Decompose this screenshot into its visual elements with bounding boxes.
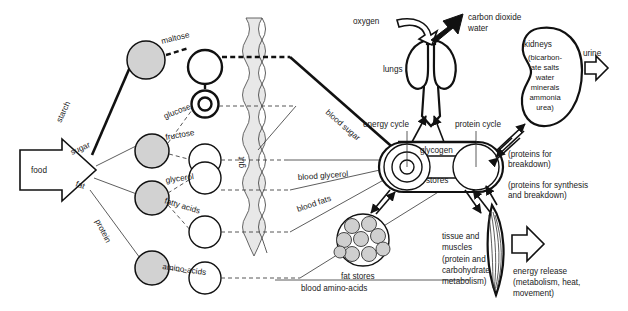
tissue-line-5: metabolism)	[442, 277, 487, 286]
proteins-synthesis-2: and breakdown)	[508, 191, 567, 200]
kidneys-organ: kidneys (bicarbon- ate salts water miner…	[522, 28, 582, 126]
tissue-line-2: muscles	[442, 243, 472, 252]
tissue-muscle: tissue and muscles (protein and carbohyd…	[442, 205, 504, 295]
tissue-line-4: carbohydrate	[442, 266, 490, 275]
glycogen-label: glycogen	[420, 146, 453, 155]
energy-release-2: (metabolism, heat,	[513, 278, 580, 287]
diagram-svg: food starch sugar fat protein	[0, 0, 628, 311]
sugar-label: sugar	[69, 140, 92, 157]
kidney-contents-6: urea)	[536, 103, 554, 112]
starch-label: starch	[55, 99, 73, 123]
lungs-label: lungs	[383, 65, 403, 74]
fatty-acids-label: fatty acids	[163, 196, 201, 215]
node-glycerol	[189, 162, 221, 194]
node-fatty-acids	[189, 216, 221, 248]
fat-stores: fat stores	[334, 214, 390, 281]
energy-release-1: energy release	[513, 267, 568, 276]
kidney-contents-2: ate salts	[531, 63, 559, 72]
tissue-line-3: (protein and	[442, 255, 486, 264]
co2-output-arrow: carbon dioxide water	[431, 13, 522, 42]
blood-amino-acids-label: blood amino-acids	[301, 284, 367, 293]
node-maltose	[188, 50, 222, 84]
protein-breakdown-callout: (proteins for breakdown) (proteins for s…	[508, 150, 588, 200]
water-label: water	[467, 24, 488, 33]
stores-label: stores	[426, 176, 448, 185]
liver-organ: glycogen stores	[379, 142, 503, 192]
urine-output-arrow: urine	[583, 49, 608, 80]
proteins-breakdown-1: (proteins for	[508, 150, 552, 159]
lungs-organ: lungs	[383, 36, 456, 126]
glucose-label: glucose	[162, 102, 192, 121]
kidney-contents-4: minerals	[531, 83, 560, 92]
tissue-line-1: tissue and	[442, 232, 480, 241]
oxygen-intake-arrow: oxygen	[353, 17, 437, 45]
gut-tube: gut	[237, 18, 267, 256]
node-starch	[127, 41, 165, 79]
proteins-breakdown-2: breakdown)	[508, 160, 551, 169]
blood-glycerol-label: blood glycerol	[298, 169, 349, 182]
fat-label: fat	[74, 179, 86, 191]
kidney-contents-3: water	[535, 73, 555, 82]
food-label: food	[31, 166, 47, 175]
node-sugar	[135, 134, 169, 168]
urine-label: urine	[583, 49, 602, 58]
kidney-contents-1: (bicarbon-	[528, 53, 563, 62]
protein-label: protein	[93, 218, 113, 245]
gut-label: gut	[237, 156, 246, 168]
fructose-label: fructose	[165, 128, 196, 142]
liver-fat-arrows	[371, 190, 395, 214]
blood-sugar-label: blood sugar	[324, 108, 362, 143]
maltose-label: maltose	[160, 30, 190, 46]
node-fat	[135, 181, 169, 215]
fat-stores-label: fat stores	[341, 272, 375, 281]
kidney-contents-5: ammonia	[529, 93, 561, 102]
carbon-dioxide-label: carbon dioxide	[468, 13, 522, 22]
proteins-synthesis-1: (proteins for synthesis	[508, 181, 588, 190]
blood-fats-label: blood fats	[296, 194, 333, 214]
node-glucose-inner	[199, 98, 212, 111]
protein-cycle-label: protein cycle	[455, 120, 501, 129]
oxygen-label: oxygen	[353, 17, 380, 26]
metabolism-diagram-canvas: food starch sugar fat protein	[0, 0, 628, 311]
energy-release-arrow: energy release (metabolism, heat, moveme…	[512, 227, 580, 298]
energy-release-3: movement)	[513, 289, 554, 298]
kidneys-label: kidneys	[524, 40, 552, 49]
energy-cycle-label: energy cycle	[363, 120, 409, 129]
